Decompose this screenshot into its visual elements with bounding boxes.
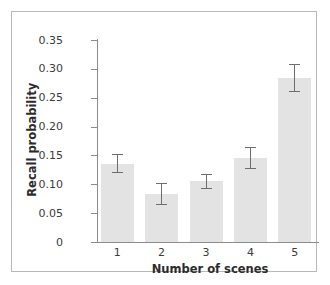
y-tick-mark <box>91 155 97 156</box>
figure-screenshot: 00.050.100.150.200.250.300.35 12345 Numb… <box>0 0 330 285</box>
y-tick-label: 0.15 <box>39 150 64 161</box>
error-bar-cap-top <box>156 183 167 184</box>
x-axis-line <box>97 242 319 243</box>
y-tick-label: 0.25 <box>39 92 64 103</box>
bar <box>234 158 267 242</box>
error-bar-cap-bottom <box>289 91 300 92</box>
error-bar <box>198 174 214 189</box>
y-tick-label: 0.35 <box>39 35 64 46</box>
error-bar-cap-top <box>201 174 212 175</box>
y-tick-mark <box>91 213 97 214</box>
error-bar-cap-bottom <box>112 172 123 173</box>
figure-border: 00.050.100.150.200.250.300.35 12345 Numb… <box>11 11 317 272</box>
y-tick-mark <box>91 184 97 185</box>
error-bar <box>242 147 258 169</box>
error-bar-stem <box>117 154 118 172</box>
x-tick-label: 2 <box>142 247 182 258</box>
y-tick-label: 0.30 <box>39 63 64 74</box>
error-bar-cap-bottom <box>156 204 167 205</box>
y-tick-label: 0.10 <box>39 179 64 190</box>
error-bar-cap-bottom <box>245 168 256 169</box>
y-axis-title: Recall probability <box>27 80 39 200</box>
error-bar-cap-bottom <box>201 188 212 189</box>
error-bar <box>109 154 125 172</box>
error-bar <box>154 183 170 205</box>
x-tick-label: 4 <box>230 247 270 258</box>
y-tick-mark <box>91 127 97 128</box>
error-bar-cap-top <box>245 147 256 148</box>
y-tick-label: 0.05 <box>39 208 64 219</box>
error-bar-stem <box>206 174 207 189</box>
bar <box>101 164 134 242</box>
y-tick-label: 0.20 <box>39 121 64 132</box>
x-axis-title: Number of scenes <box>98 264 322 276</box>
x-tick-label: 1 <box>97 247 137 258</box>
y-tick-mark <box>91 69 97 70</box>
error-bar-cap-top <box>289 64 300 65</box>
x-tick-label: 3 <box>186 247 226 258</box>
error-bar-stem <box>161 183 162 205</box>
x-tick-label: 5 <box>275 247 315 258</box>
error-bar <box>287 64 303 92</box>
bar <box>278 78 311 242</box>
error-bar-stem <box>294 64 295 92</box>
error-bar-stem <box>250 147 251 169</box>
y-tick-label: 0 <box>56 237 63 248</box>
y-tick-mark <box>91 40 97 41</box>
y-tick-mark <box>91 98 97 99</box>
bar <box>190 181 223 242</box>
y-axis-line <box>97 39 98 243</box>
y-tick-mark <box>91 242 97 243</box>
error-bar-cap-top <box>112 154 123 155</box>
